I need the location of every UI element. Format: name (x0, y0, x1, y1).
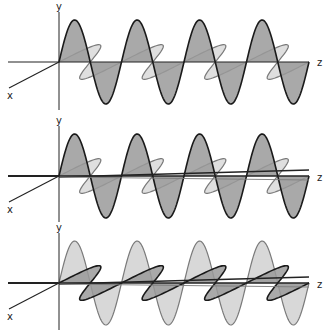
y-axis-label: y (56, 1, 62, 12)
z-axis-label: z (317, 57, 322, 68)
x-axis-label: x (7, 204, 13, 215)
z-axis-label: z (317, 279, 322, 290)
x-axis-label: x (7, 90, 13, 101)
x-axis (9, 62, 59, 88)
panel-3: yxz (7, 222, 322, 330)
panel-2: yxz (7, 115, 322, 222)
x-axis (9, 283, 59, 309)
x-axis (9, 176, 59, 202)
z-axis-label: z (317, 172, 322, 183)
y-axis-label: y (56, 115, 62, 126)
wave-figure: yxzyxzyxz (0, 0, 328, 332)
x-axis-label: x (7, 311, 13, 322)
panel-1: yxz (7, 1, 322, 110)
y-axis-label: y (56, 222, 62, 233)
